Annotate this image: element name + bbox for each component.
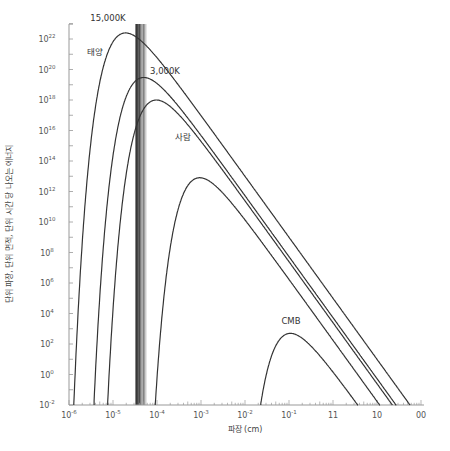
y-axis-title: 단위 파장, 단위 면적, 단위 시간 당 나오는 에너지 (4, 145, 14, 303)
x-tick-label: 10-6 (61, 409, 77, 420)
curve-label: 3,000K (150, 66, 180, 76)
curve-label: 사람 (175, 132, 191, 142)
y-tick-label: 104 (40, 308, 54, 319)
x-tick-label: 10-4 (149, 409, 165, 420)
x-tick-label: 10-2 (237, 409, 253, 420)
x-tick-label: 10-5 (105, 409, 121, 420)
curve-2 (108, 100, 393, 405)
curve-label: CMB (281, 316, 300, 326)
y-tick-label: 1018 (38, 94, 56, 105)
y-tick-label: 106 (40, 277, 54, 288)
x-tick-label: 10-3 (193, 409, 209, 420)
y-tick-label: 100 (40, 369, 54, 380)
y-tick-label: 108 (40, 247, 54, 258)
curve-label: 태양 (87, 47, 103, 57)
y-tick-label: 10-2 (39, 399, 55, 410)
x-tick-label: 11 (328, 411, 338, 420)
x-tick-label: 10 (372, 411, 382, 420)
y-tick-label: 1012 (38, 186, 55, 197)
visible-light-band (135, 24, 146, 405)
y-tick-label: 102 (40, 338, 54, 349)
curve-0 (74, 33, 410, 405)
y-tick-label: 1010 (38, 216, 56, 227)
axes (69, 24, 424, 405)
curves (74, 33, 410, 405)
y-tick-label: 1020 (38, 64, 56, 75)
y-tick-label: 1016 (38, 125, 56, 136)
curve-4 (261, 333, 358, 405)
y-tick-label: 1022 (38, 33, 55, 44)
x-tick-label: 10-1 (281, 409, 297, 420)
curve-labels: 15,000K태양3,000K사람CMB (87, 13, 301, 326)
x-tick-label: 00 (416, 411, 426, 420)
x-axis-title: 파장 (cm) (228, 424, 263, 434)
blackbody-chart: 15,000K태양3,000K사람CMB 1022102010181016101… (0, 0, 450, 451)
y-tick-label: 1014 (38, 155, 56, 166)
curve-label: 15,000K (90, 13, 126, 23)
